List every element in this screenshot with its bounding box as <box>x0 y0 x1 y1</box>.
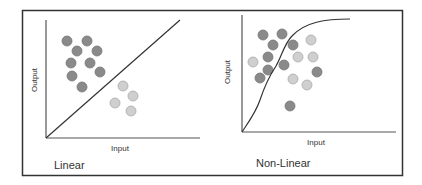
data-point <box>67 71 77 81</box>
data-point <box>288 74 298 84</box>
data-point <box>277 29 287 39</box>
data-point <box>85 58 95 68</box>
data-point <box>293 52 303 62</box>
data-point <box>77 82 87 92</box>
linear-light-points <box>110 81 138 116</box>
data-point <box>66 58 76 68</box>
data-point <box>268 40 278 50</box>
data-point <box>95 67 105 77</box>
data-point <box>92 46 102 56</box>
data-point <box>306 35 316 45</box>
linear-x-label: Input <box>111 144 130 153</box>
data-point <box>72 46 82 56</box>
diagram-canvas: Input Output Linear Input Output Non-Lin… <box>0 0 422 185</box>
nonlinear-y-label: Output <box>223 59 232 84</box>
data-point <box>312 67 322 77</box>
data-point <box>110 98 120 108</box>
linear-chart: Input Output Linear <box>30 20 200 171</box>
data-point <box>118 81 128 91</box>
data-point <box>128 91 138 101</box>
linear-y-label: Output <box>30 67 39 92</box>
data-point <box>82 36 92 46</box>
nonlinear-title: Non-Linear <box>256 157 311 169</box>
data-point <box>248 57 258 67</box>
data-point <box>255 73 265 83</box>
data-point <box>285 101 295 111</box>
data-point <box>263 52 273 62</box>
nonlinear-chart: Input Output Non-Linear <box>223 15 396 169</box>
data-point <box>302 80 312 90</box>
outer-frame <box>23 11 403 176</box>
nonlinear-x-label: Input <box>307 138 326 147</box>
data-point <box>126 106 136 116</box>
linear-dark-points <box>62 36 105 92</box>
data-point <box>62 36 72 46</box>
linear-title: Linear <box>54 159 85 171</box>
data-point <box>288 40 298 50</box>
data-point <box>258 30 268 40</box>
data-point <box>279 60 289 70</box>
data-point <box>308 52 318 62</box>
